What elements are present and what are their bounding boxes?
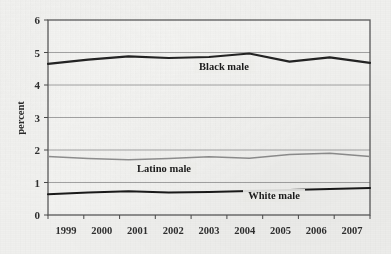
x-tick-label-2002: 2002 bbox=[163, 225, 184, 236]
series-annotation-latino-male: Latino male bbox=[131, 162, 197, 175]
y-tick-label-5: 5 bbox=[35, 47, 41, 59]
x-tick-label-2007: 2007 bbox=[342, 225, 363, 236]
series-annotation-black-male: Black male bbox=[194, 60, 255, 73]
x-tick-label-2001: 2001 bbox=[127, 225, 148, 236]
y-tick-label-6: 6 bbox=[35, 14, 41, 26]
y-tick-label-3: 3 bbox=[35, 112, 41, 124]
x-tick-label-2005: 2005 bbox=[270, 225, 291, 236]
x-tick-label-1999: 1999 bbox=[55, 225, 76, 236]
y-tick-label-2: 2 bbox=[35, 144, 41, 156]
series-annotation-label-white-male: White male bbox=[248, 190, 300, 201]
y-tick-label-4: 4 bbox=[35, 79, 41, 91]
x-tick-label-2003: 2003 bbox=[199, 225, 220, 236]
series-annotation-label-black-male: Black male bbox=[199, 61, 249, 72]
series-annotation-label-latino-male: Latino male bbox=[137, 163, 191, 174]
line-chart: 6 5 4 3 2 1 0 percent 1999 2000 2001 200… bbox=[0, 0, 391, 254]
y-tick-label-0: 0 bbox=[35, 209, 41, 221]
x-tick-label-2006: 2006 bbox=[306, 225, 327, 236]
y-tick-label-1: 1 bbox=[35, 177, 41, 189]
chart-page: 6 5 4 3 2 1 0 percent 1999 2000 2001 200… bbox=[0, 0, 391, 254]
y-axis-title: percent bbox=[15, 101, 26, 135]
series-annotation-white-male: White male bbox=[243, 189, 305, 202]
x-tick-label-2000: 2000 bbox=[91, 225, 112, 236]
x-tick-label-2004: 2004 bbox=[234, 225, 256, 236]
